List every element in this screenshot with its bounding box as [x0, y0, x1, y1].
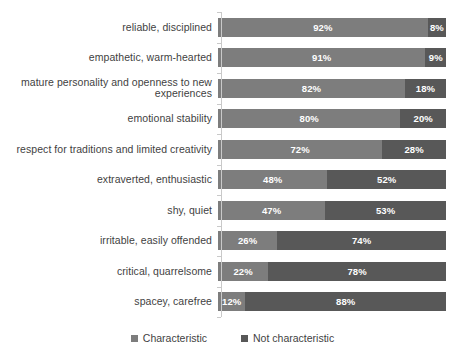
bar-segment-characteristic: 12%	[218, 292, 245, 311]
category-label: extraverted, enthusiastic	[0, 174, 218, 186]
axis-tick	[217, 226, 221, 227]
axis-tick	[217, 195, 221, 196]
legend-label: Characteristic	[143, 332, 207, 344]
bar-segment-not-characteristic: 8%	[428, 18, 446, 37]
axis-tick	[217, 104, 221, 105]
bar-value-label: 78%	[347, 266, 366, 277]
axis-tick	[217, 165, 221, 166]
bar-segment-characteristic: 91%	[218, 48, 425, 67]
axis-tick	[217, 73, 221, 74]
stacked-bar: 47%53%	[218, 201, 446, 220]
chart-row: empathetic, warm-hearted91%9%	[0, 43, 465, 74]
bar-value-label: 53%	[376, 205, 395, 216]
category-axis-line	[221, 12, 222, 317]
axis-tick	[217, 317, 221, 318]
axis-tick	[217, 12, 221, 13]
bar-value-label: 72%	[290, 144, 309, 155]
legend-label: Not characteristic	[253, 332, 334, 344]
bar-value-label: 52%	[377, 174, 396, 185]
plot-area: reliable, disciplined92%8%empathetic, wa…	[0, 12, 465, 317]
stacked-bar: 80%20%	[218, 109, 446, 128]
stacked-bar: 12%88%	[218, 292, 446, 311]
chart-row: spacey, carefree12%88%	[0, 287, 465, 318]
chart-row: shy, quiet47%53%	[0, 195, 465, 226]
category-label: respect for traditions and limited creat…	[0, 144, 218, 156]
bar-segment-not-characteristic: 28%	[382, 140, 446, 159]
stacked-bar: 26%74%	[218, 231, 446, 250]
bar-value-label: 26%	[238, 235, 257, 246]
bar-segment-not-characteristic: 18%	[405, 79, 446, 98]
bar-value-label: 80%	[300, 113, 319, 124]
stacked-bar-chart: reliable, disciplined92%8%empathetic, wa…	[0, 0, 465, 363]
category-label: emotional stability	[0, 113, 218, 125]
chart-row: irritable, easily offended26%74%	[0, 226, 465, 257]
legend-item[interactable]: Not characteristic	[241, 332, 334, 344]
axis-tick	[217, 287, 221, 288]
chart-row: reliable, disciplined92%8%	[0, 12, 465, 43]
stacked-bar: 92%8%	[218, 18, 446, 37]
bar-value-label: 20%	[414, 113, 433, 124]
legend-swatch-icon	[241, 335, 248, 342]
bar-value-label: 48%	[263, 174, 282, 185]
category-label: empathetic, warm-hearted	[0, 52, 218, 64]
bar-segment-not-characteristic: 74%	[277, 231, 446, 250]
bar-segment-not-characteristic: 52%	[327, 170, 446, 189]
stacked-bar: 82%18%	[218, 79, 446, 98]
bar-value-label: 18%	[416, 83, 435, 94]
bar-value-label: 47%	[262, 205, 281, 216]
axis-tick	[217, 256, 221, 257]
bar-value-label: 91%	[312, 52, 331, 63]
bar-segment-not-characteristic: 20%	[400, 109, 446, 128]
bar-segment-characteristic: 82%	[218, 79, 405, 98]
bar-segment-characteristic: 26%	[218, 231, 277, 250]
chart-row: mature personality and openness to new e…	[0, 73, 465, 104]
legend-swatch-icon	[131, 335, 138, 342]
stacked-bar: 72%28%	[218, 140, 446, 159]
bar-value-label: 82%	[302, 83, 321, 94]
stacked-bar: 91%9%	[218, 48, 446, 67]
bar-segment-characteristic: 80%	[218, 109, 400, 128]
axis-tick	[217, 43, 221, 44]
legend-item[interactable]: Characteristic	[131, 332, 207, 344]
stacked-bar: 48%52%	[218, 170, 446, 189]
category-label: critical, quarrelsome	[0, 266, 218, 278]
bar-segment-not-characteristic: 88%	[245, 292, 446, 311]
category-label: mature personality and openness to new e…	[0, 77, 218, 100]
category-label: shy, quiet	[0, 205, 218, 217]
bar-value-label: 74%	[352, 235, 371, 246]
category-label: reliable, disciplined	[0, 22, 218, 34]
bar-segment-not-characteristic: 9%	[425, 48, 446, 67]
chart-row: emotional stability80%20%	[0, 104, 465, 135]
bar-segment-characteristic: 22%	[218, 262, 268, 281]
axis-tick	[217, 134, 221, 135]
bar-segment-characteristic: 72%	[218, 140, 382, 159]
chart-row: respect for traditions and limited creat…	[0, 134, 465, 165]
category-label: spacey, carefree	[0, 296, 218, 308]
bar-value-label: 9%	[427, 52, 445, 63]
bar-segment-not-characteristic: 78%	[268, 262, 446, 281]
bar-value-label: 8%	[428, 22, 446, 33]
stacked-bar: 22%78%	[218, 262, 446, 281]
bar-value-label: 92%	[313, 22, 332, 33]
chart-legend: CharacteristicNot characteristic	[0, 332, 465, 344]
bar-segment-characteristic: 47%	[218, 201, 325, 220]
bar-value-label: 88%	[336, 296, 355, 307]
chart-row: extraverted, enthusiastic48%52%	[0, 165, 465, 196]
bar-value-label: 12%	[220, 296, 243, 307]
chart-row: critical, quarrelsome22%78%	[0, 256, 465, 287]
bar-segment-characteristic: 92%	[218, 18, 428, 37]
bar-value-label: 22%	[233, 266, 252, 277]
category-label: irritable, easily offended	[0, 235, 218, 247]
bar-value-label: 28%	[404, 144, 423, 155]
bar-segment-characteristic: 48%	[218, 170, 327, 189]
bar-segment-not-characteristic: 53%	[325, 201, 446, 220]
